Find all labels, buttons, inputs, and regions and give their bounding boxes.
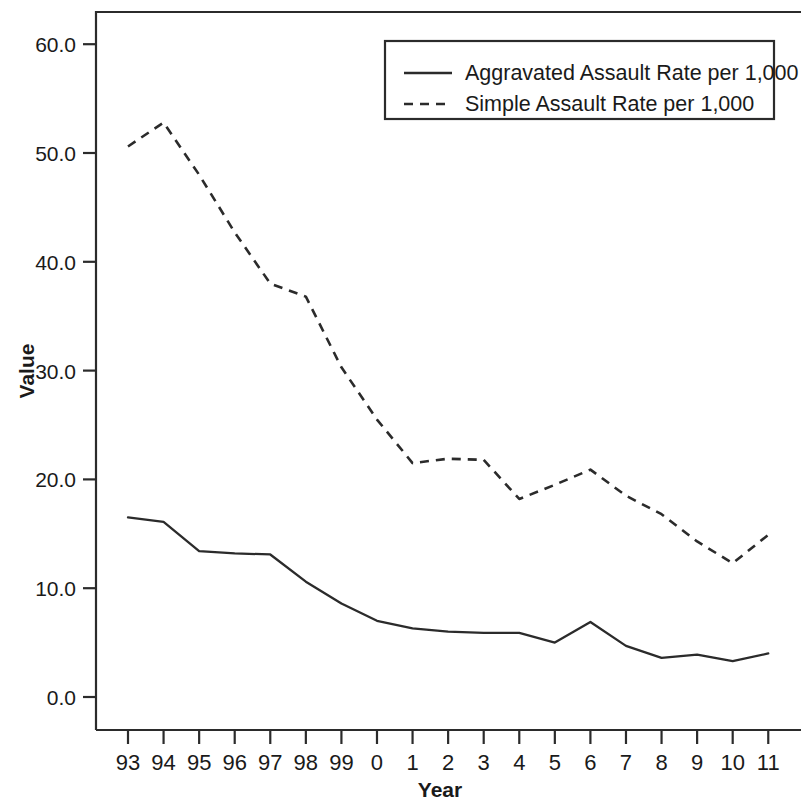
y-tick-label: 40.0 <box>35 251 76 274</box>
y-tick-label: 60.0 <box>35 33 76 56</box>
x-tick-labels: 9394959697989901234567891011 <box>116 750 780 775</box>
x-tick-label: 94 <box>151 750 175 775</box>
x-tick-label: 11 <box>757 750 780 775</box>
x-tick-label: 10 <box>720 750 744 775</box>
line-chart: 0.010.020.030.040.050.060.0 939495969798… <box>0 0 801 803</box>
x-tick-label: 97 <box>258 750 282 775</box>
x-tick-label: 93 <box>116 750 140 775</box>
x-tick-label: 5 <box>549 750 561 775</box>
chart-container: 0.010.020.030.040.050.060.0 939495969798… <box>0 0 801 803</box>
series-line-simple-assault <box>128 123 768 564</box>
x-tick-label: 99 <box>329 750 353 775</box>
x-tick-label: 98 <box>294 750 318 775</box>
legend-label-simple-assault: Simple Assault Rate per 1,000 <box>465 92 754 116</box>
y-tick-label: 0.0 <box>47 686 76 709</box>
legend: Aggravated Assault Rate per 1,000 Simple… <box>385 41 799 119</box>
y-tick-label: 10.0 <box>35 577 76 600</box>
x-tick-label: 2 <box>442 750 454 775</box>
x-tick-marks <box>128 730 768 744</box>
x-tick-label: 1 <box>406 750 418 775</box>
x-tick-label: 3 <box>478 750 490 775</box>
x-tick-label: 95 <box>187 750 211 775</box>
legend-label-aggravated-assault: Aggravated Assault Rate per 1,000 <box>465 61 799 85</box>
y-tick-label: 20.0 <box>35 468 76 491</box>
x-axis-title: Year <box>418 778 462 801</box>
x-tick-label: 4 <box>513 750 525 775</box>
y-tick-label: 30.0 <box>35 360 76 383</box>
series-line-aggravated-assault <box>128 517 768 661</box>
x-tick-label: 7 <box>620 750 632 775</box>
x-tick-label: 0 <box>371 750 383 775</box>
y-axis-title: Value <box>15 344 38 399</box>
x-tick-label: 9 <box>691 750 703 775</box>
x-tick-label: 6 <box>584 750 596 775</box>
y-tick-marks <box>83 44 96 697</box>
x-tick-label: 96 <box>222 750 246 775</box>
y-tick-labels: 0.010.020.030.040.050.060.0 <box>35 33 76 709</box>
y-tick-label: 50.0 <box>35 142 76 165</box>
x-tick-label: 8 <box>655 750 667 775</box>
